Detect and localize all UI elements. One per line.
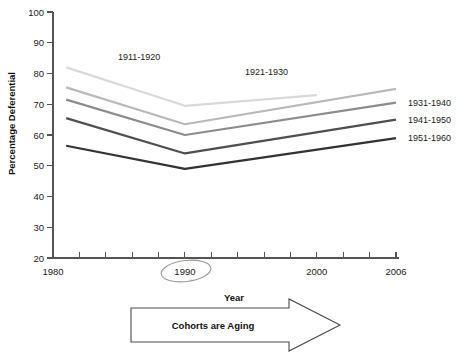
y-tick-label: 80 [33, 68, 44, 79]
line-chart: 2030405060708090100 1980199020002006 191… [0, 0, 469, 354]
series-label-1941-1950: 1941-1950 [408, 115, 451, 125]
y-tick-label: 70 [33, 99, 44, 110]
y-tick-label: 60 [33, 130, 44, 141]
series-line-1941-1950 [66, 118, 396, 153]
cohorts-aging-label: Cohorts are Aging [172, 320, 255, 331]
series-line-1921-1930 [66, 87, 396, 124]
x-tick-label: 1980 [42, 266, 63, 277]
series-label-1951-1960: 1951-1960 [408, 133, 451, 143]
series-label-1921-1930: 1921-1930 [245, 67, 288, 77]
x-axis-ticks: 1980199020002006 [42, 252, 406, 277]
y-tick-label: 40 [33, 191, 44, 202]
y-tick-label: 20 [33, 253, 44, 264]
x-tick-label: 2000 [306, 266, 327, 277]
x-tick-label: 2006 [385, 266, 406, 277]
x-tick-label: 1990 [174, 266, 195, 277]
series-label-1931-1940: 1931-1940 [408, 98, 451, 108]
y-axis-title: Percentage Deferential [6, 72, 17, 175]
chart-container: 2030405060708090100 1980199020002006 191… [0, 0, 469, 354]
x-axis-title: Year [224, 292, 244, 303]
series-line-1951-1960 [66, 138, 396, 169]
y-tick-label: 90 [33, 37, 44, 48]
y-axis-ticks: 2030405060708090100 [28, 7, 53, 264]
series-label-1911-1920: 1911-1920 [118, 52, 160, 62]
y-tick-label: 50 [33, 160, 44, 171]
y-tick-label: 100 [28, 7, 44, 18]
series-lines [66, 67, 396, 168]
y-tick-label: 30 [33, 222, 44, 233]
